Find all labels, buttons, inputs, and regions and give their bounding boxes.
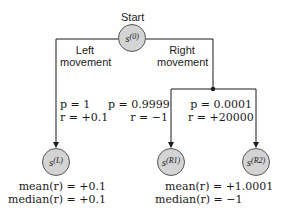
left-mean: mean(r) = +0.1	[8, 180, 106, 193]
left-branch-line2: movement	[60, 56, 110, 68]
node-sL-sup: (L)	[53, 156, 63, 165]
edge-R2-prob: p = 0.0001	[188, 98, 252, 111]
right-stats: mean(r) = +1.0001 median(r) = −1	[155, 180, 273, 206]
edge-L-reward: r = +0.1	[60, 111, 108, 124]
edge-R2-labels: p = 0.0001 r = +20000	[188, 98, 252, 124]
start-label: Start	[121, 11, 144, 23]
edge-R1-prob: p = 0.9999	[108, 98, 168, 111]
node-sL: s(L)	[42, 148, 70, 176]
edge-L-prob: p = 1	[60, 98, 108, 111]
edge-R1-reward: r = −1	[108, 111, 168, 124]
edge-R2-reward: r = +20000	[188, 111, 252, 124]
right-branch-line1: Right	[157, 44, 207, 56]
edge-R1-labels: p = 0.9999 r = −1	[108, 98, 168, 124]
node-sR1: s(R1)	[157, 148, 185, 176]
edge-L-labels: p = 1 r = +0.1	[60, 98, 108, 124]
node-sR1-sup: (R1)	[166, 156, 180, 165]
left-branch-line1: Left	[60, 44, 110, 56]
left-branch-label: Left movement	[60, 44, 110, 68]
right-mean: mean(r) = +1.0001	[155, 180, 273, 193]
right-median: median(r) = −1	[155, 193, 273, 206]
node-sR2: s(R2)	[242, 148, 270, 176]
node-s0-sup: (0)	[129, 32, 138, 41]
right-branch-line2: movement	[157, 56, 207, 68]
right-branch-label: Right movement	[157, 44, 207, 68]
node-sR2-sup: (R2)	[251, 156, 265, 165]
node-s0: s(0)	[118, 24, 146, 52]
left-median: median(r) = +0.1	[8, 193, 106, 206]
left-stats: mean(r) = +0.1 median(r) = +0.1	[8, 180, 106, 206]
